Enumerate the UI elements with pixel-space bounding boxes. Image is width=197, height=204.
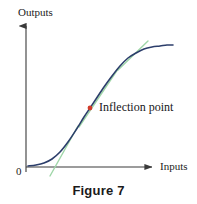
inflection-point-label: Inflection point (99, 101, 173, 113)
tangent-line-inflection (79, 69, 118, 127)
figure-caption: Figure 7 (0, 184, 197, 197)
inflection-point-marker (88, 106, 93, 111)
y-axis-label: Outputs (18, 7, 53, 18)
figure-container: Outputs Inputs 0 Inflection point Figure… (0, 0, 197, 204)
origin-label: 0 (16, 166, 22, 177)
x-axis-label: Inputs (160, 161, 188, 172)
